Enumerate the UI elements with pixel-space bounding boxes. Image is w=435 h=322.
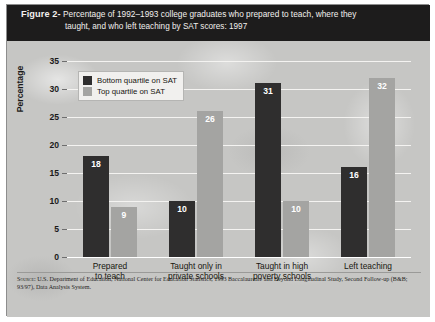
y-tick-mark-5 [62, 229, 67, 230]
x-axis-label-line: Taught only in [153, 261, 239, 271]
gridline-25 [67, 117, 411, 118]
y-tick-label-25: 25 [37, 112, 59, 122]
chart-area: Percentage 189102631101632 Bottom quarti… [7, 41, 430, 317]
bar-value-label: 31 [255, 86, 281, 96]
x-axis-label-line: poverty schools [239, 271, 325, 281]
legend-swatch-top-quartile [83, 87, 92, 96]
x-axis-label-group-3: Taught in highpoverty schools [239, 261, 325, 281]
gridline-0 [67, 257, 411, 258]
bar-value-label: 18 [83, 159, 109, 169]
y-tick-mark-10 [62, 201, 67, 202]
gridline-35 [67, 61, 411, 62]
legend-swatch-bottom-quartile [83, 76, 92, 85]
x-axis-label-group-1: Preparedto teach [67, 261, 153, 281]
bar-value-label: 32 [369, 81, 395, 91]
y-tick-label-30: 30 [37, 84, 59, 94]
bar-value-label: 10 [169, 204, 195, 214]
legend-label-bottom-quartile: Bottom quartile on SAT [97, 76, 177, 85]
bar-bottom-quartile-group-2: 10 [169, 201, 195, 257]
y-tick-label-0: 0 [37, 252, 59, 262]
bar-top-quartile-group-3: 10 [283, 201, 309, 257]
figure-number-label: Figure 2- [21, 9, 61, 19]
y-tick-mark-25 [62, 117, 67, 118]
bar-bottom-quartile-group-3: 31 [255, 83, 281, 257]
x-axis-label-line: Left teaching [325, 261, 411, 271]
y-tick-mark-0 [62, 257, 67, 258]
bar-value-label: 10 [283, 204, 309, 214]
bar-bottom-quartile-group-4: 16 [341, 167, 367, 257]
legend-label-top-quartile: Top quartile on SAT [97, 87, 165, 96]
y-tick-label-5: 5 [37, 224, 59, 234]
bar-value-label: 26 [197, 114, 223, 124]
figure-frame: Figure 2- Percentage of 1992–1993 colleg… [6, 4, 429, 316]
y-tick-mark-15 [62, 173, 67, 174]
y-tick-label-20: 20 [37, 140, 59, 150]
x-axis-label-line: to teach [67, 271, 153, 281]
legend-item-bottom-quartile: Bottom quartile on SAT [83, 75, 177, 86]
y-tick-mark-35 [62, 61, 67, 62]
bar-value-label: 9 [111, 210, 137, 220]
figure-caption-line-2: taught, and who left teaching by SAT sco… [65, 21, 420, 32]
figure-caption: Figure 2- Percentage of 1992–1993 colleg… [21, 9, 420, 33]
bar-bottom-quartile-group-1: 18 [83, 156, 109, 257]
legend-item-top-quartile: Top quartile on SAT [83, 86, 177, 97]
bar-value-label: 16 [341, 170, 367, 180]
figure-caption-line-1: Percentage of 1992–1993 college graduate… [63, 9, 356, 19]
y-tick-label-35: 35 [37, 56, 59, 66]
x-axis-label-line: private schools [153, 271, 239, 281]
source-prefix: Source: [17, 276, 36, 282]
x-axis-label-line: Taught in high [239, 261, 325, 271]
bar-top-quartile-group-1: 9 [111, 207, 137, 257]
x-axis-label-group-4: Left teaching [325, 261, 411, 271]
x-axis-label-line: Prepared [67, 261, 153, 271]
y-axis-title: Percentage [15, 49, 25, 129]
y-tick-mark-20 [62, 145, 67, 146]
gridline-20 [67, 145, 411, 146]
chart-legend: Bottom quartile on SAT Top quartile on S… [78, 71, 184, 101]
figure-caption-band: Figure 2- Percentage of 1992–1993 colleg… [7, 5, 430, 41]
bar-top-quartile-group-4: 32 [369, 78, 395, 257]
x-axis-label-group-2: Taught only inprivate schools [153, 261, 239, 281]
bar-top-quartile-group-2: 26 [197, 111, 223, 257]
y-tick-label-10: 10 [37, 196, 59, 206]
y-tick-label-15: 15 [37, 168, 59, 178]
y-tick-mark-30 [62, 89, 67, 90]
